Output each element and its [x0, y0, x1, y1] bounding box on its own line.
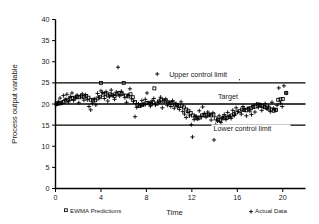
- actual-data-point: [197, 109, 201, 113]
- actual-data-point: [128, 87, 132, 91]
- ewma-prediction-point: [153, 87, 156, 90]
- actual-data-point: [155, 72, 159, 76]
- spc-chart-svg: 0510152025303540048121620TimeProcess out…: [0, 0, 319, 224]
- actual-data-point: [95, 91, 99, 95]
- y-tick-label: 35: [42, 36, 50, 45]
- actual-data-point: [116, 65, 120, 69]
- annotation-lower-control-limit: Lower control limit: [213, 124, 271, 133]
- x-tick-label: 0: [54, 193, 58, 202]
- actual-data-point: [226, 110, 230, 114]
- annotation-upper-control-limit: Upper control limit: [169, 70, 227, 79]
- y-tick-label: 25: [42, 78, 50, 87]
- actual-data-point: [109, 88, 113, 92]
- chart-figure: 0510152025303540048121620TimeProcess out…: [0, 0, 319, 224]
- y-tick-label: 5: [46, 163, 50, 172]
- y-tick-label: 40: [42, 15, 50, 24]
- x-tick-label: 16: [233, 193, 241, 202]
- actual-data-point: [160, 106, 164, 110]
- actual-data-point: [159, 95, 163, 99]
- actual-data-point: [253, 110, 257, 114]
- y-tick-label: 30: [42, 57, 50, 66]
- y-tick-label: 20: [42, 100, 50, 109]
- actual-data-point: [102, 96, 106, 100]
- actual-data-point: [212, 138, 216, 142]
- actual-data-point: [244, 114, 248, 118]
- actual-data-point: [234, 106, 238, 110]
- actual-data-point: [145, 91, 149, 95]
- legend-label-ewma: EWMA Predictions: [70, 207, 121, 214]
- y-tick-label: 0: [46, 184, 50, 193]
- x-axis-title: Time: [166, 208, 183, 217]
- x-tick-label: 20: [279, 193, 287, 202]
- x-tick-label: 4: [99, 193, 103, 202]
- y-tick-label: 15: [42, 121, 50, 130]
- actual-data-point: [277, 86, 281, 90]
- y-axis-title: Process output variable: [10, 64, 19, 143]
- y-tick-label: 10: [42, 142, 50, 151]
- actual-data-point: [106, 99, 110, 103]
- annotation-target: Target: [218, 92, 238, 101]
- actual-data-point: [190, 135, 194, 139]
- legend-marker-ewma-square-icon: [65, 209, 68, 212]
- actual-data-point: [201, 105, 205, 109]
- actual-data-point: [282, 84, 286, 88]
- actual-data-point: [231, 108, 235, 112]
- actual-data-point: [133, 115, 137, 119]
- legend-label-actual: Actual Data: [255, 207, 288, 214]
- x-tick-label: 12: [188, 193, 196, 202]
- x-tick-label: 8: [144, 193, 148, 202]
- legend-marker-actual-plus-icon: [249, 210, 253, 214]
- actual-data-point: [189, 123, 193, 127]
- actual-data-point: [209, 118, 213, 122]
